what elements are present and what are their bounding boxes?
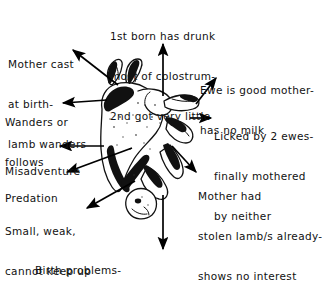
mother-cast-line-1: Mother cast — [8, 58, 86, 71]
birth-problems-line-1: Birth problems- — [35, 264, 221, 277]
small-weak-line-1: Small, weak, — [5, 225, 91, 238]
ewe-good-mother-line-1: Ewe is good mother- — [200, 84, 314, 97]
wanders-line-1: Wanders or — [5, 116, 68, 129]
diagram-canvas: 1st born has drunk most of colostrum- 2n… — [0, 0, 322, 287]
stolen-line-1: Mother had — [198, 190, 322, 203]
licked-line-1: Licked by 2 ewes- — [214, 130, 314, 143]
first-born-line-1: 1st born has drunk — [110, 30, 215, 43]
label-birth-problems: Birth problems- lack of O2, brain haemor… — [35, 238, 221, 287]
